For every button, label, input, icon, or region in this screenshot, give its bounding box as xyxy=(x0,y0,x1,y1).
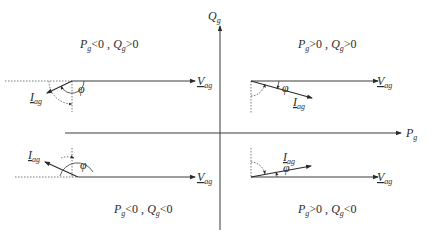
angle-label-top-left: φ xyxy=(78,82,85,96)
condition-bottom-right: Pg>0 , Qg<0 xyxy=(297,202,357,218)
phasor-bottom-right xyxy=(251,148,378,177)
angle-label-bottom-right: φ xyxy=(283,161,290,175)
current-label-top-left: Iag xyxy=(29,90,42,106)
condition-bottom-left: Pg<0 , Qg<0 xyxy=(113,202,173,218)
condition-top-left: Pg<0 , Qg>0 xyxy=(79,37,139,53)
q-axis-label: Qg xyxy=(208,9,221,25)
voltage-label-top-right: Vag xyxy=(377,74,392,90)
angle-label-top-right: φ xyxy=(282,81,289,95)
current-vector-bottom-right xyxy=(251,166,311,177)
condition-top-right: Pg>0 , Qg>0 xyxy=(297,37,357,53)
current-label-top-right: Iag xyxy=(292,95,305,111)
voltage-label-bottom-right: Vag xyxy=(377,170,392,186)
current-label-bottom-left: Iag xyxy=(27,148,40,164)
current-vector-bottom-left xyxy=(45,162,78,177)
current-vector-top-left xyxy=(47,81,72,93)
pq-quadrant-diagram: Qg Pg Pg<0 , Qg>0 Pg>0 , Qg>0 Pg<0 , Qg<… xyxy=(0,0,436,233)
phasor-top-right xyxy=(251,81,378,113)
phasor-bottom-left xyxy=(15,148,195,177)
angle-label-bottom-left: φ xyxy=(80,158,87,172)
p-axis-label: Pg xyxy=(405,126,417,142)
voltage-label-top-left: Vag xyxy=(197,74,212,90)
voltage-label-bottom-left: Vag xyxy=(197,170,212,186)
